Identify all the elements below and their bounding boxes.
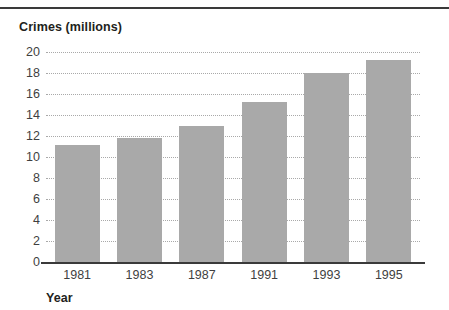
bar <box>55 145 100 262</box>
y-tick-label: 0 <box>33 255 40 269</box>
gridline-14 <box>46 115 420 116</box>
y-tick-label: 16 <box>26 87 40 101</box>
bar <box>117 138 162 262</box>
gridline-20 <box>46 52 420 53</box>
gridline-8 <box>46 178 420 179</box>
y-tick-label: 8 <box>33 171 40 185</box>
y-tick-label: 12 <box>26 129 40 143</box>
gridline-4 <box>46 220 420 221</box>
y-tick-label: 20 <box>26 45 40 59</box>
x-axis-line <box>41 262 425 264</box>
x-tick-label: 1995 <box>375 268 403 282</box>
gridline-10 <box>46 157 420 158</box>
y-tick-label: 10 <box>26 150 40 164</box>
y-axis-title: Crimes (millions) <box>19 20 122 34</box>
gridline-2 <box>46 241 420 242</box>
y-tick-label: 4 <box>33 213 40 227</box>
y-tick-label: 2 <box>33 234 40 248</box>
bar <box>242 102 287 262</box>
gridline-16 <box>46 94 420 95</box>
bar <box>179 126 224 263</box>
x-tick-label: 1981 <box>63 268 91 282</box>
y-tick-label: 6 <box>33 192 40 206</box>
x-tick-label: 1993 <box>313 268 341 282</box>
bar <box>304 73 349 262</box>
bar <box>366 60 411 262</box>
bar-chart-figure: Crimes (millions) 02468101214161820 1981… <box>0 0 449 310</box>
gridline-12 <box>46 136 420 137</box>
x-tick-label: 1991 <box>250 268 278 282</box>
y-axis-tick-labels: 02468101214161820 <box>8 52 40 262</box>
x-axis-title: Year <box>46 291 73 305</box>
gridline-6 <box>46 199 420 200</box>
x-tick-label: 1987 <box>188 268 216 282</box>
x-axis-tick-labels: 198119831987199119931995 <box>46 268 420 286</box>
x-tick-label: 1983 <box>126 268 154 282</box>
y-tick-label: 14 <box>26 108 40 122</box>
gridline-18 <box>46 73 420 74</box>
plot-area <box>46 52 420 262</box>
y-tick-label: 18 <box>26 66 40 80</box>
